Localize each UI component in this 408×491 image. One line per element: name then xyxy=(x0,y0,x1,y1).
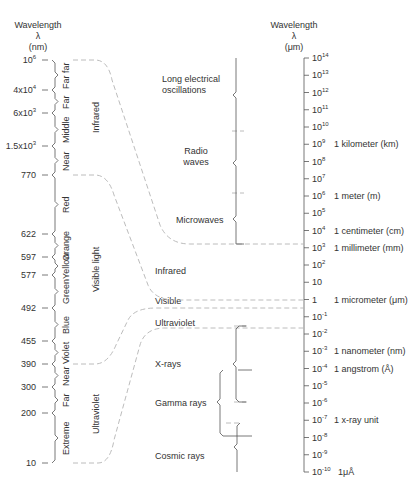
dashed-connectors xyxy=(73,60,304,463)
left-braces xyxy=(42,60,58,463)
right-axis-tick-marks xyxy=(304,58,309,472)
middle-braces xyxy=(217,58,252,472)
